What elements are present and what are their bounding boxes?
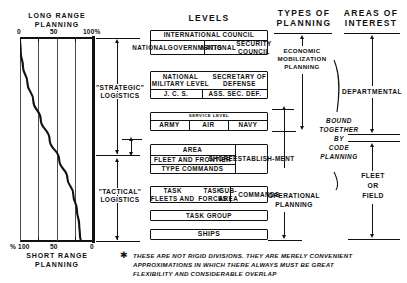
levels-heading: LEVELS [150,14,268,24]
footnote-line-2: APPROXIMATIONS IN WHICH THERE ALWAYS MUS… [133,261,334,270]
strategic-logistics-label-line2: LOGISTICS [96,92,144,99]
levels-cell[interactable]: NATIONAL MILITARY LEVELSECRETARY OF DEFE… [150,71,268,89]
economic-arrow-down [300,126,304,130]
fleet-or-field-l2: OR [348,182,398,190]
fleet-stem-lower [372,204,373,236]
operational-stem-lower [284,212,285,237]
chart-tick-0-top: 0 [17,28,21,35]
types-heading-line2: PLANNING [272,19,336,29]
operational-planning-l2: PLANNING [266,201,322,208]
strategic-logistics-label-line1: "STRATEGIC" [96,84,144,91]
chart-bottom-label-line2: PLANNING [14,261,100,269]
tactical-arrow-up [115,158,119,162]
levels-cell[interactable]: ARMY [150,120,189,131]
operational-planning-l1: OPERATIONAL [266,192,322,199]
tactical-arrow-down [115,236,119,240]
departmental-bottom-rule [348,134,400,135]
levels-cell[interactable]: TYPE COMMANDS [150,164,235,174]
fleet-top-rule [348,141,400,142]
footnote-line-3: FLEXIBILITY AND CONSIDERABLE OVERLAP [133,270,277,279]
footnote-line-1: THESE ARE NOT RIGID DIVISIONS. THEY ARE … [133,252,352,261]
planning-curve [20,38,94,241]
departmental-label: DEPARTMENTAL [342,88,402,95]
levels-cell[interactable]: FLEET AND FRONTIER [150,155,235,165]
economic-stem-upper [302,38,303,46]
strategic-arrow-down [115,150,119,154]
levels-cell[interactable]: NATIONALGOVERNMENTS [150,40,204,55]
tactical-bracket-bottom-rule [96,241,140,242]
departmental-stem-lower [372,98,373,131]
levels-cell[interactable]: NATIONALSECURITY COUNCIL [204,40,268,55]
fleet-arrow-down [370,234,374,238]
operational-stem-upper [284,110,285,168]
operational-anchor-rule [272,109,294,110]
fleet-or-field-l1: FLEET [348,172,398,180]
levels-cell[interactable]: SHIPS [150,229,268,240]
levels-cell[interactable]: SERVICE LEVEL [150,112,268,120]
strategic-bracket-bottom-rule [96,155,140,156]
strategic-arrow-up [115,39,119,43]
area-span-top-rule [122,139,142,140]
chart-tick-0-bottom: 0 [90,243,94,250]
chart-tick-50-top: 50 [50,28,58,35]
levels-cell[interactable]: NAVY [228,120,268,131]
bound-together-brace [310,60,370,190]
planning-chart-plot [20,38,94,241]
levels-cell[interactable]: SUB-AREACOMMANDS [230,186,268,203]
departmental-stem-upper [372,38,373,86]
levels-cell[interactable]: INTERNATIONAL COUNCIL [150,30,268,40]
levels-cell[interactable]: TASK GROUP [150,210,268,221]
economic-mobilization-l1: ECONOMIC [276,48,328,55]
levels-cell[interactable]: AREA [150,144,235,155]
chart-tick-100-bottom: % 100 [10,243,30,250]
areas-heading-line2: INTEREST [340,19,402,29]
chart-tick-50-bottom: 50 [50,243,58,250]
levels-cell[interactable]: AIR [189,120,228,131]
tactical-logistics-label-line2: LOGISTICS [96,196,144,203]
fleet-bottom-rule [348,239,400,240]
chart-bottom-label-line1: SHORT RANGE [14,252,100,260]
chart-top-label-line1: LONG RANGE [14,12,100,20]
levels-cell[interactable]: SHOREESTABLISH-MENT [235,144,268,174]
footnote-star-icon: ✱ [120,251,128,260]
operational-bottom-rule [268,240,302,241]
fleet-stem-upper [372,146,373,171]
fleet-or-field-l3: FIELD [348,192,398,200]
economic-stem-lower [302,74,303,128]
operational-arrow-down [282,235,286,239]
departmental-arrow-down [370,129,374,133]
levels-cell[interactable]: ASS. SEC. DEF. [202,89,268,99]
diagram-canvas: LONG RANGE PLANNING 0 50 100% % 100 50 0… [0,0,407,283]
levels-cell[interactable]: J. C. S. [150,89,202,99]
tactical-logistics-label-line1: "TACTICAL" [96,188,144,195]
area-span-arrow-down [129,152,133,156]
chart-tick-100-top: 100% [83,28,101,35]
